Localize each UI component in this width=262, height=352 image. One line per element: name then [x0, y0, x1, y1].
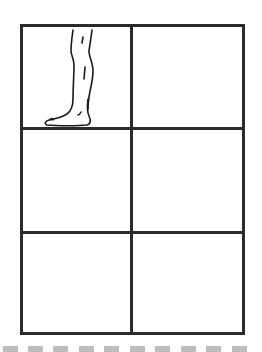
dash-segment: [155, 346, 170, 352]
grid-cell-r2-c1: [23, 130, 133, 234]
grid-cell-r1-c2: [133, 27, 242, 130]
dash-segment: [232, 346, 247, 352]
dash-segment: [3, 346, 18, 352]
grid-cell-r2-c2: [133, 130, 242, 234]
dash-segment: [79, 346, 94, 352]
grid-cell-r3-c1: [23, 234, 133, 332]
dashed-cut-line: [0, 346, 262, 352]
grid-cell-r3-c2: [133, 234, 242, 332]
dash-segment: [181, 346, 196, 352]
dash-segment: [130, 346, 145, 352]
dash-segment: [206, 346, 221, 352]
dash-segment: [104, 346, 119, 352]
dash-segment: [28, 346, 43, 352]
leg-drawing-icon: [23, 27, 130, 128]
worksheet-grid: [20, 24, 245, 335]
grid-cell-r1-c1: [23, 27, 133, 130]
dash-segment: [53, 346, 68, 352]
